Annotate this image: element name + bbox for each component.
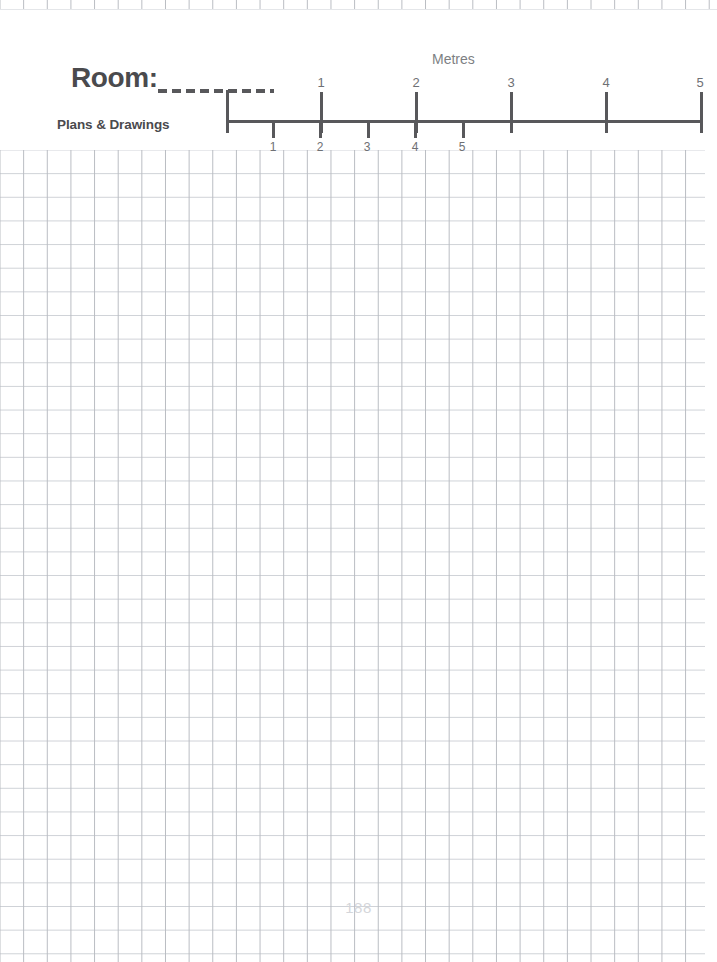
scale-label-lower-1: 1 (263, 140, 283, 154)
scale-label-lower-2: 2 (310, 140, 330, 154)
scale-tick-lower-1 (272, 122, 275, 138)
scale-tick-lower-2 (319, 122, 322, 138)
page-number: 188 (0, 899, 717, 916)
scale-label-lower-3: 3 (357, 140, 377, 154)
scale-label-lower-5: 5 (452, 140, 472, 154)
scale-tick-upper-5 (700, 92, 703, 133)
scale-tick-upper-3 (510, 92, 513, 133)
scale-label-upper-5: 5 (690, 75, 710, 90)
scale-label-lower-4: 4 (405, 140, 425, 154)
scale-tick-upper-4 (605, 92, 608, 133)
scale-unit-label: Metres (432, 51, 475, 67)
scale-tick-lower-3 (367, 122, 370, 138)
scale-label-upper-4: 4 (596, 75, 616, 90)
notebook-page: Room: Plans & Drawings Metres 1 2 3 4 5 … (0, 0, 717, 962)
scale-tick-lower-5 (462, 122, 465, 138)
scale-label-upper-2: 2 (406, 75, 426, 90)
scale-tick-zero (226, 90, 229, 133)
scale-tick-lower-4 (414, 122, 417, 138)
scale-label-upper-1: 1 (311, 75, 331, 90)
scale-bar: Metres 1 2 3 4 5 1 2 3 4 5 (0, 0, 717, 160)
graph-paper-grid (0, 150, 705, 962)
scale-label-upper-3: 3 (501, 75, 521, 90)
